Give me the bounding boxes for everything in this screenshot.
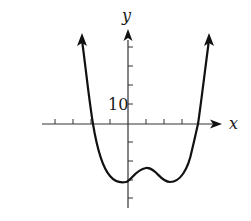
x-axis-label: x	[229, 114, 238, 133]
polynomial-graph: x y 10	[0, 0, 251, 221]
x-ticks	[55, 119, 182, 124]
y-axis-label: y	[121, 6, 132, 25]
y-tick-label-10: 10	[108, 95, 128, 114]
x-axis: x	[42, 114, 238, 133]
polynomial-curve	[82, 40, 209, 182]
y-ticks	[128, 47, 133, 198]
y-axis-arrow-icon	[124, 29, 133, 41]
